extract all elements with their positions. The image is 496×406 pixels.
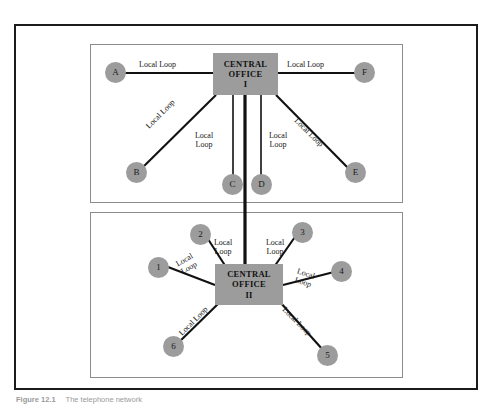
node-f-label: F [362,68,367,77]
figure-caption: Figure 12.1The telephone network [16,395,142,404]
node-1[interactable]: 1 [148,257,169,278]
node-2-label: 2 [198,230,203,239]
label-local-loop-d-line2: Loop [270,140,287,149]
label-local-loop-2: Local Loop [209,238,237,256]
node-f[interactable]: F [354,62,375,83]
label-local-loop-c-line2: Loop [196,140,213,149]
central-office-1-line2: OFFICE [229,69,263,79]
node-6[interactable]: 6 [163,336,184,357]
central-office-1-line3: I [244,79,248,89]
node-5[interactable]: 5 [317,345,338,366]
central-office-2-line1: CENTRAL [227,269,271,279]
node-e-label: E [353,168,359,177]
figure-caption-number: Figure 12.1 [16,395,56,404]
label-local-loop-2-line2: Loop [215,247,232,256]
label-local-loop-2-line1: Local [214,238,232,247]
node-3[interactable]: 3 [292,222,313,243]
central-office-2-line3: II [245,290,252,300]
node-1-label: 1 [156,263,161,272]
central-office-2-line2: OFFICE [232,279,266,289]
label-local-loop-d: Local Loop [264,131,292,149]
node-a[interactable]: A [105,62,126,83]
label-local-loop-3-line1: Local [266,238,284,247]
node-d[interactable]: D [251,174,272,195]
node-b[interactable]: B [126,162,147,183]
central-office-1[interactable]: CENTRAL OFFICE I [213,53,278,95]
label-local-loop-a: Local Loop [139,60,176,69]
central-office-1-line1: CENTRAL [224,59,268,69]
node-4[interactable]: 4 [331,261,352,282]
label-local-loop-3: Local Loop [261,238,289,256]
node-e[interactable]: E [345,162,366,183]
node-5-label: 5 [325,351,330,360]
label-local-loop-d-line1: Local [269,131,287,140]
label-local-loop-3-line2: Loop [267,247,284,256]
central-office-2[interactable]: CENTRAL OFFICE II [215,264,283,305]
label-local-loop-c: Local Loop [190,131,218,149]
node-6-label: 6 [171,342,176,351]
node-2[interactable]: 2 [190,224,211,245]
node-b-label: B [133,168,139,177]
label-local-loop-f: Local Loop [287,60,324,69]
node-c-label: C [229,180,235,189]
figure-caption-text: The telephone network [66,395,142,404]
node-a-label: A [112,68,119,77]
node-3-label: 3 [300,228,305,237]
node-d-label: D [258,180,265,189]
label-local-loop-c-line1: Local [195,131,213,140]
node-4-label: 4 [339,267,344,276]
node-c[interactable]: C [222,174,243,195]
figure-page: CENTRAL OFFICE I A B C D E F Local Loop … [0,0,496,406]
